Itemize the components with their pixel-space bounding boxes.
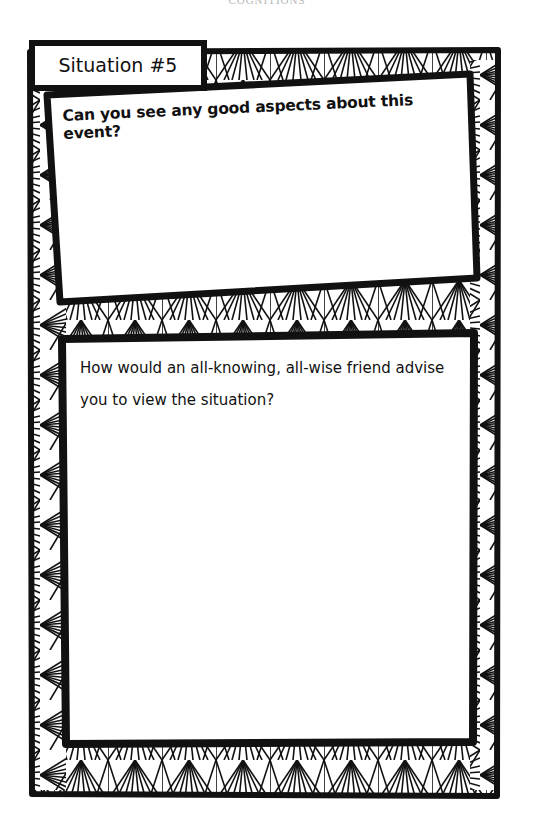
wise-friend-prompt: How would an all-knowing, all-wise frien… — [80, 352, 470, 416]
good-aspects-box: Can you see any good aspects about this … — [47, 67, 477, 308]
good-aspects-answer-field[interactable] — [64, 119, 465, 301]
wise-friend-box: How would an all-knowing, all-wise frien… — [66, 340, 470, 740]
wise-friend-answer-field[interactable] — [80, 428, 464, 732]
